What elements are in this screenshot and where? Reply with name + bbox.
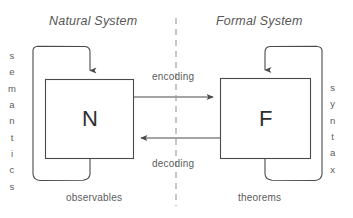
diagram-graphics — [0, 0, 353, 218]
vertical-letter: a — [330, 145, 335, 161]
theorems-caption: theorems — [238, 192, 281, 203]
observables-caption: observables — [66, 192, 122, 203]
vertical-letter: x — [330, 162, 335, 178]
vertical-letter: c — [10, 162, 15, 178]
formal-bottom-loop-line — [265, 132, 322, 181]
encoding-label: encoding — [152, 71, 194, 82]
vertical-letter: t — [11, 130, 14, 146]
formal-system-title: Formal System — [216, 14, 303, 28]
syntax-vertical-label: syntax — [330, 80, 335, 178]
formal-system-letter: F — [259, 106, 272, 132]
natural-bottom-loop-line — [33, 132, 90, 181]
diagram-canvas: Natural System Formal System N F encodin… — [0, 0, 353, 218]
natural-system-title: Natural System — [49, 14, 137, 28]
vertical-letter: s — [10, 48, 15, 64]
natural-system-letter: N — [82, 106, 98, 132]
decoding-label: decoding — [152, 158, 194, 169]
vertical-letter: s — [10, 179, 15, 195]
semantics-vertical-label: semantics — [8, 48, 16, 195]
vertical-letter: a — [9, 97, 14, 113]
vertical-letter: i — [11, 146, 13, 162]
vertical-letter: e — [9, 64, 14, 80]
vertical-letter: y — [330, 96, 335, 112]
vertical-letter: n — [9, 113, 14, 129]
vertical-letter: t — [331, 129, 334, 145]
vertical-letter: n — [330, 113, 335, 129]
vertical-letter: s — [330, 80, 335, 96]
vertical-letter: m — [8, 81, 16, 97]
formal-top-loop-arrow — [265, 46, 322, 132]
